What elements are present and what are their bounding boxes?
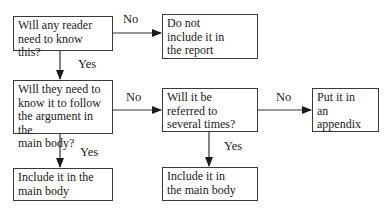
- edge-label-yes: Yes: [78, 58, 96, 71]
- node-line: Do not: [167, 17, 253, 31]
- edge-label-yes: Yes: [80, 146, 98, 159]
- node-line: Include it in the: [18, 171, 108, 185]
- node-referred-several-times: Will it be referred to several times?: [162, 88, 258, 132]
- edge-label-no: No: [123, 13, 138, 26]
- edge-label-no: No: [276, 91, 291, 104]
- edge-label-no: No: [126, 91, 141, 104]
- node-line: several times?: [167, 118, 253, 132]
- node-line: Will any reader: [18, 19, 108, 33]
- node-line: referred to: [167, 105, 253, 119]
- node-line: Will they need to: [18, 83, 108, 97]
- node-line: the argument in the: [18, 110, 108, 137]
- node-line: Include it in: [167, 170, 253, 184]
- node-line: the report: [167, 44, 253, 58]
- node-include-main-body-right: Include it in the main body: [162, 167, 258, 201]
- node-line: the main body: [167, 184, 253, 198]
- node-line: main body: [18, 185, 108, 199]
- node-line: know it to follow: [18, 97, 108, 111]
- node-put-in-appendix: Put it in an appendix: [312, 88, 379, 132]
- node-need-to-know: Will any reader need to know this?: [13, 16, 113, 51]
- node-line: Put it in: [317, 91, 374, 105]
- node-follow-argument: Will they need to know it to follow the …: [13, 80, 113, 134]
- node-line: include it in: [167, 31, 253, 45]
- edge-label-yes: Yes: [224, 140, 242, 153]
- node-line: Will it be: [167, 91, 253, 105]
- node-line: appendix: [317, 118, 374, 132]
- node-line: an: [317, 105, 374, 119]
- node-do-not-include: Do not include it in the report: [162, 14, 258, 59]
- node-line: need to know this?: [18, 33, 108, 60]
- node-include-main-body-left: Include it in the main body: [13, 168, 113, 201]
